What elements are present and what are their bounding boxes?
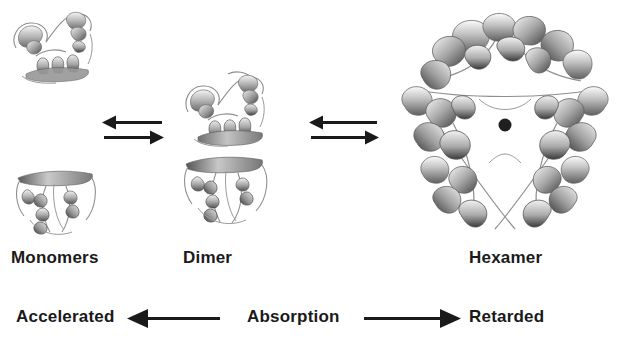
label-hexamer: Hexamer [469, 248, 542, 268]
equilibrium-arrows-dimer-hexamer [307, 113, 381, 153]
equilibrium-arrows-monomer-dimer [100, 113, 166, 153]
label-accelerated: Accelerated [16, 307, 115, 327]
arrow-accelerated-left [126, 305, 222, 337]
label-retarded: Retarded [469, 307, 544, 327]
protein-dimer-ribbon-top-subunit [176, 66, 280, 152]
protein-monomer-ribbon-bottom [6, 160, 106, 242]
protein-dimer-ribbon-bottom-subunit [176, 148, 280, 234]
label-dimer: Dimer [183, 248, 232, 268]
protein-monomer-ribbon-top [6, 4, 106, 88]
label-monomers: Monomers [11, 248, 99, 268]
zinc-ion [499, 119, 512, 132]
protein-hexamer-ribbon [393, 3, 617, 237]
oligomerization-figure: Monomers Dimer Hexamer Accelerated Absor… [0, 0, 619, 344]
label-absorption: Absorption [247, 307, 340, 327]
arrow-retarded-right [362, 305, 462, 337]
